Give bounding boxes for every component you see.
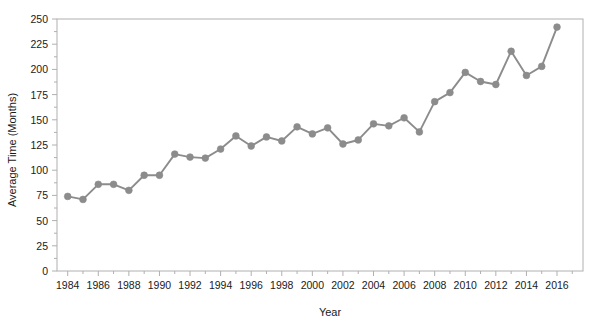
line-chart: 0255075100125150175200225250 19841986198… [0, 0, 596, 326]
data-point-marker [125, 187, 132, 194]
data-point-marker [385, 122, 392, 129]
data-point-marker [278, 138, 285, 145]
x-axis-tick-label: 2006 [392, 279, 416, 291]
x-axis-tick-label: 1984 [56, 279, 80, 291]
plot-area-frame [57, 19, 583, 271]
x-axis-tick-label: 2016 [545, 279, 569, 291]
data-point-marker [156, 172, 163, 179]
data-point-marker [217, 146, 224, 153]
data-point-marker [95, 181, 102, 188]
data-point-marker [447, 89, 454, 96]
x-axis-tick-labels: 1984198619881990199219941996199820002002… [56, 279, 569, 291]
data-point-marker [554, 24, 561, 31]
x-axis-tick-label: 1992 [178, 279, 202, 291]
y-axis-tick-label: 0 [42, 265, 48, 277]
chart-container: 0255075100125150175200225250 19841986198… [0, 0, 596, 326]
data-point-marker [294, 123, 301, 130]
x-axis-tick-label: 1990 [148, 279, 172, 291]
data-point-marker [401, 114, 408, 121]
y-axis-title: Average Time (Months) [6, 93, 18, 207]
plot-area [57, 19, 583, 271]
data-point-marker [80, 196, 87, 203]
data-point-marker [171, 151, 178, 158]
y-axis-tick-label: 250 [30, 13, 48, 25]
y-axis-tick-label: 25 [36, 240, 48, 252]
data-point-marker [462, 69, 469, 76]
data-point-marker [309, 131, 316, 138]
data-point-marker [431, 98, 438, 105]
data-point-marker [477, 78, 484, 85]
data-point-marker [187, 154, 194, 161]
x-axis-tick-label: 1998 [270, 279, 294, 291]
x-axis-tick-label: 2002 [331, 279, 355, 291]
x-axis-tick-label: 2008 [423, 279, 447, 291]
x-axis-title: Year [319, 306, 342, 318]
data-point-marker [355, 137, 362, 144]
x-axis-tick-label: 1988 [117, 279, 141, 291]
data-point-marker [141, 172, 148, 179]
x-axis-tick-label: 2010 [454, 279, 478, 291]
data-point-marker [508, 48, 515, 55]
data-point-marker [248, 143, 255, 150]
y-axis-tick-label: 75 [36, 189, 48, 201]
data-point-marker [370, 120, 377, 127]
data-point-marker [416, 129, 423, 136]
x-axis-tick-label: 1994 [209, 279, 233, 291]
data-point-marker [263, 134, 270, 141]
y-axis-tick-label: 175 [30, 89, 48, 101]
x-axis-tick-label: 1986 [87, 279, 111, 291]
y-axis-tick-label: 150 [30, 114, 48, 126]
y-axis-tick-label: 100 [30, 164, 48, 176]
x-axis-tick-label: 2000 [301, 279, 325, 291]
y-axis-tick-label: 200 [30, 63, 48, 75]
y-axis-tick-label: 225 [30, 38, 48, 50]
data-point-marker [492, 81, 499, 88]
data-point-marker [340, 141, 347, 148]
data-point-marker [202, 155, 209, 162]
data-point-marker [233, 133, 240, 140]
data-point-marker [523, 72, 530, 79]
y-axis-tick-label: 125 [30, 139, 48, 151]
data-point-marker [110, 181, 117, 188]
data-point-marker [324, 124, 331, 131]
x-axis-tick-label: 2004 [362, 279, 386, 291]
y-axis-tick-label: 50 [36, 215, 48, 227]
data-point-marker [538, 63, 545, 70]
x-axis-tick-label: 2012 [484, 279, 508, 291]
x-axis-tick-label: 2014 [515, 279, 539, 291]
data-point-marker [64, 193, 71, 200]
x-axis-tick-label: 1996 [240, 279, 264, 291]
